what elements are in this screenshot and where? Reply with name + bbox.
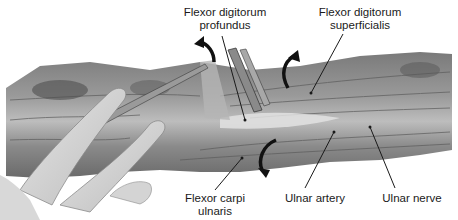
label-flexor-digitorum-profundus: Flexor digitorum profundus: [165, 6, 285, 32]
label-line: Ulnar nerve: [370, 192, 454, 205]
label-line: Flexor carpi: [170, 192, 260, 205]
label-ulnar-artery: Ulnar artery: [270, 192, 360, 205]
label-flexor-digitorum-superficialis: Flexor digitorum superficialis: [300, 6, 420, 32]
label-line: Flexor digitorum: [300, 6, 420, 19]
label-flexor-carpi-ulnaris: Flexor carpi ulnaris: [170, 192, 260, 218]
retract-fdp-arrow: [194, 36, 214, 62]
label-ulnar-nerve: Ulnar nerve: [370, 192, 454, 205]
label-line: superficialis: [300, 19, 420, 32]
label-line: Flexor digitorum: [165, 6, 285, 19]
anatomy-figure: Flexor digitorum profundus Flexor digito…: [0, 0, 458, 220]
label-line: Ulnar artery: [270, 192, 360, 205]
label-line: ulnaris: [170, 205, 260, 218]
forearm-dissection-photo: [0, 0, 458, 220]
label-line: profundus: [165, 19, 285, 32]
